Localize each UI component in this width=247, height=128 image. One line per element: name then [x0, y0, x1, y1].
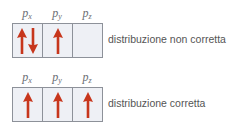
electron-spin-up-arrow-icon	[83, 92, 93, 118]
orbital-box	[12, 23, 103, 58]
label-px: px	[12, 70, 42, 88]
caption-correct: distribuzione corretta	[108, 97, 205, 109]
orbital-cell-py	[43, 88, 73, 121]
electron-spin-up-arrow-icon	[23, 92, 33, 118]
caption-incorrect: distribuzione non corretta	[108, 33, 226, 45]
orbital-labels: px py pz	[12, 6, 104, 22]
electron-spin-up-arrow-icon	[53, 92, 63, 118]
orbital-cell-px	[13, 88, 43, 121]
orbital-labels: px py pz	[12, 70, 104, 86]
orbital-cell-py	[43, 24, 73, 57]
electron-spin-up-arrow-icon	[53, 28, 63, 54]
electron-spin-up-arrow-icon	[17, 28, 27, 54]
label-px: px	[12, 6, 42, 24]
electron-spin-down-arrow-icon	[28, 28, 38, 54]
label-pz: pz	[72, 70, 102, 88]
label-pz: pz	[72, 6, 102, 24]
orbital-box	[12, 87, 103, 122]
orbital-cell-pz	[73, 24, 102, 57]
label-py: py	[42, 70, 72, 88]
label-py: py	[42, 6, 72, 24]
orbital-cell-pz	[73, 88, 102, 121]
orbital-cell-px	[13, 24, 43, 57]
